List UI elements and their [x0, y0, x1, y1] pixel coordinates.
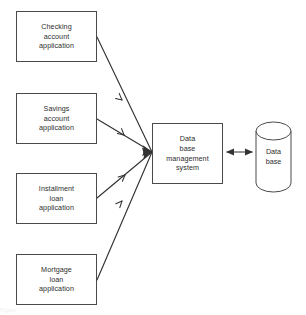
- node-mortgage-loan-application[interactable]: Mortgage loan application: [16, 254, 97, 305]
- node-installment-loan-application[interactable]: Installment loan application: [16, 173, 97, 224]
- node-label-line: Checking: [41, 22, 71, 32]
- node-label-line: application: [39, 284, 74, 294]
- node-label-line: application: [39, 203, 74, 213]
- node-label-line: Mortgage: [41, 265, 72, 275]
- arrowhead-toward-database: [245, 149, 253, 156]
- footer-caption-fragment: Figure: [0, 307, 306, 315]
- database-cylinder-shape: [256, 122, 291, 192]
- node-checking-account-application[interactable]: Checking account application: [16, 11, 97, 62]
- connector-arrowheads-mid: [116, 93, 126, 207]
- node-label-line: base: [180, 144, 196, 154]
- diagram-canvas: Checking account application Savings acc…: [0, 0, 306, 315]
- node-label-line: Installment: [39, 184, 74, 194]
- node-label-line: system: [176, 163, 199, 173]
- node-label-line: Savings: [44, 104, 70, 114]
- node-label-line: application: [39, 123, 74, 133]
- node-label-line: management: [166, 154, 208, 164]
- node-savings-account-application[interactable]: Savings account application: [16, 93, 97, 144]
- arrowhead-mid-mortgage: [116, 201, 122, 208]
- connector-mortgage-to-dbms: [97, 152, 152, 280]
- node-label-line: loan: [50, 275, 64, 285]
- arrowhead-mid-checking: [116, 93, 123, 100]
- node-label-line: Data: [180, 134, 195, 144]
- arrowhead-toward-dbms: [226, 149, 234, 156]
- node-label-line: loan: [50, 194, 64, 204]
- node-database-management-system[interactable]: Data base management system: [152, 123, 223, 184]
- node-label-line: account: [44, 114, 70, 124]
- connector-checking-to-dbms: [97, 37, 152, 152]
- node-label-line: account: [44, 32, 70, 42]
- node-label-line: application: [39, 41, 74, 51]
